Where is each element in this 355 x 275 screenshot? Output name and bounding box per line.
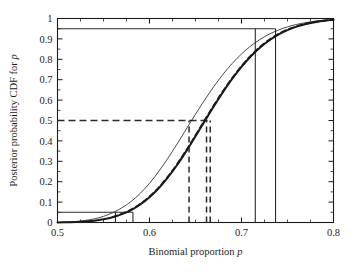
y-tick-label: 0.6	[39, 95, 52, 106]
x-tick-label: 0.7	[235, 227, 248, 238]
y-axis-title: Posterior probability CDF for p	[8, 54, 19, 186]
x-tick-label: 0.6	[143, 227, 156, 238]
y-tick-label: 0.3	[39, 156, 52, 167]
y-tick-label: 0.1	[39, 197, 52, 208]
cdf-chart: 0.50.60.70.800.10.20.30.40.50.60.70.80.9…	[0, 0, 355, 275]
x-axis-title: Binomial proportion p	[149, 246, 243, 257]
y-tick-label: 0.4	[39, 136, 53, 147]
x-tick-label: 0.8	[327, 227, 340, 238]
x-tick-label: 0.5	[51, 227, 64, 238]
series-cdf-thick	[58, 20, 334, 223]
y-tick-label: 0.8	[39, 54, 52, 65]
y-tick-label: 0.2	[39, 176, 52, 187]
y-tick-label: 0	[47, 217, 52, 228]
y-tick-label: 0.9	[39, 34, 52, 45]
figure-container: 0.50.60.70.800.10.20.30.40.50.60.70.80.9…	[0, 0, 355, 275]
y-tick-label: 0.7	[39, 74, 52, 85]
y-tick-label: 0.5	[39, 115, 52, 126]
y-tick-label: 1	[47, 13, 52, 24]
